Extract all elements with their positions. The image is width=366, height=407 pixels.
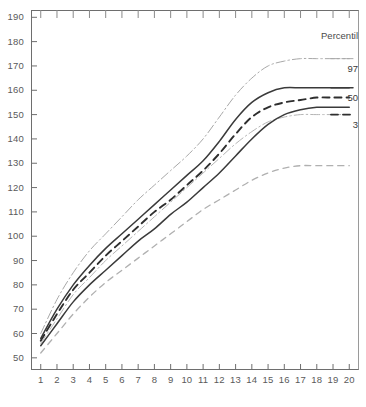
y-axis-tick-label: 150 <box>0 109 24 120</box>
y-axis-ticks <box>31 17 37 358</box>
percentile-curves <box>41 58 350 353</box>
x-axis-tick-label: 20 <box>340 374 358 385</box>
y-axis-tick-label: 160 <box>0 84 24 95</box>
curve-label-50: 50 <box>347 92 358 103</box>
legend-title: Percentil <box>321 30 358 41</box>
percentile-curve-3-lower <box>41 165 350 352</box>
y-axis-tick-label: 170 <box>0 60 24 71</box>
y-axis-tick-label: 80 <box>0 279 24 290</box>
curve-label-97: 97 <box>347 63 358 74</box>
y-axis-tick-label: 100 <box>0 230 24 241</box>
percentile-curve-50 <box>41 87 350 338</box>
chart-canvas <box>0 0 366 407</box>
top-axis-ticks <box>41 10 350 18</box>
percentile-curve-3 <box>41 97 350 340</box>
y-axis-tick-label: 130 <box>0 157 24 168</box>
y-axis-tick-label: 70 <box>0 303 24 314</box>
y-axis-tick-label: 110 <box>0 206 24 217</box>
x-axis-ticks <box>41 364 350 370</box>
y-axis-tick-label: 60 <box>0 328 24 339</box>
y-axis-tick-label: 50 <box>0 352 24 363</box>
y-axis-tick-label: 180 <box>0 36 24 47</box>
curve-label-3: 3 <box>353 119 358 130</box>
percentile-curve-97-lower <box>41 114 350 343</box>
percentile-curve-50-lower <box>41 107 350 346</box>
growth-chart: 5060708090100110120130140150160170180190… <box>0 0 366 407</box>
y-axis-tick-label: 190 <box>0 11 24 22</box>
y-axis-tick-label: 120 <box>0 182 24 193</box>
y-axis-tick-label: 90 <box>0 255 24 266</box>
y-axis-tick-label: 140 <box>0 133 24 144</box>
